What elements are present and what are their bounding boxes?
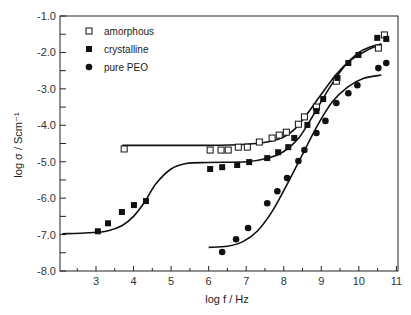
y-axis-label: log σ / Scm⁻¹ xyxy=(12,112,24,178)
data-point-amorphous xyxy=(301,114,307,120)
data-point-crystalline xyxy=(291,135,297,141)
legend-label-crystalline: crystalline xyxy=(104,44,149,55)
x-tick-label: 7 xyxy=(243,275,249,287)
data-point-crystalline xyxy=(285,144,291,150)
y-tick-label: -3.0 xyxy=(37,83,56,95)
data-point-crystalline xyxy=(119,209,125,215)
legend-label-pure-peo: pure PEO xyxy=(104,62,148,73)
data-point-pure-PEO xyxy=(333,100,340,107)
data-point-pure-PEO xyxy=(284,175,291,182)
data-point-crystalline xyxy=(246,159,252,165)
data-point-amorphous xyxy=(235,144,241,150)
data-point-crystalline xyxy=(313,108,319,114)
data-point-pure-PEO xyxy=(233,236,240,243)
y-axis-ticks: -1.0-2.0-3.0-4.0-5.0-6.0-7.0-8.0 xyxy=(37,10,66,277)
x-axis-ticks: 34567891011 xyxy=(77,266,402,287)
data-point-pure-PEO xyxy=(219,249,226,256)
data-point-amorphous xyxy=(218,147,224,153)
data-point-pure-PEO xyxy=(322,118,329,125)
data-point-crystalline xyxy=(334,75,340,81)
x-tick-label: 6 xyxy=(206,275,212,287)
data-point-pure-PEO xyxy=(274,188,281,195)
data-point-crystalline xyxy=(275,149,281,155)
data-point-crystalline xyxy=(95,228,101,234)
x-tick-label: 8 xyxy=(281,275,287,287)
data-point-pure-PEO xyxy=(245,225,252,232)
data-point-amorphous xyxy=(121,146,127,152)
y-tick-label: -6.0 xyxy=(37,192,56,204)
data-point-amorphous xyxy=(375,45,381,51)
data-point-crystalline xyxy=(374,35,380,41)
data-point-amorphous xyxy=(269,135,275,141)
data-point-pure-PEO xyxy=(264,200,271,207)
data-point-pure-PEO xyxy=(301,147,308,154)
x-axis-label: log f / Hz xyxy=(205,293,248,305)
legend-pure-peo-filled-circle-icon xyxy=(86,64,93,71)
x-tick-label: 3 xyxy=(93,275,99,287)
x-tick-label: 9 xyxy=(318,275,324,287)
y-tick-label: -1.0 xyxy=(37,10,56,22)
data-point-crystalline xyxy=(234,162,240,168)
data-point-amorphous xyxy=(207,147,213,153)
data-point-amorphous xyxy=(225,147,231,153)
data-point-amorphous xyxy=(276,132,282,138)
data-point-crystalline xyxy=(383,36,389,42)
data-point-pure-PEO xyxy=(345,90,352,97)
legend: amorphous crystalline pure PEO xyxy=(86,26,154,73)
y-tick-label: -7.0 xyxy=(37,229,56,241)
fit-curves xyxy=(62,44,381,247)
data-point-crystalline xyxy=(264,155,270,161)
legend-crystalline-filled-square-icon xyxy=(86,46,92,52)
y-tick-label: -5.0 xyxy=(37,156,56,168)
y-tick-label: -2.0 xyxy=(37,46,56,58)
data-point-crystalline xyxy=(131,202,137,208)
x-tick-label: 5 xyxy=(168,275,174,287)
data-point-crystalline xyxy=(355,52,361,58)
data-point-crystalline xyxy=(143,198,149,204)
data-point-pure-PEO xyxy=(295,158,302,165)
data-point-pure-PEO xyxy=(354,82,361,89)
data-point-crystalline xyxy=(219,164,225,170)
y-tick-label: -8.0 xyxy=(37,265,56,277)
data-point-pure-PEO xyxy=(375,65,382,72)
legend-label-amorphous: amorphous xyxy=(104,26,154,37)
y-tick-label: -4.0 xyxy=(37,119,56,131)
x-tick-label: 10 xyxy=(353,275,365,287)
x-tick-label: 4 xyxy=(130,275,136,287)
data-point-pure-PEO xyxy=(313,130,320,137)
x-tick-label: 11 xyxy=(391,275,402,287)
data-point-amorphous xyxy=(244,144,250,150)
data-point-amorphous xyxy=(256,139,262,145)
fit-curve-pure-PEO xyxy=(209,75,382,247)
data-point-crystalline xyxy=(207,166,213,172)
data-point-amorphous xyxy=(283,129,289,135)
data-point-pure-PEO xyxy=(383,60,390,67)
data-point-crystalline xyxy=(345,60,351,66)
data-point-crystalline xyxy=(304,122,310,128)
legend-amorphous-open-square-icon xyxy=(86,28,92,34)
fit-curve-amorphous xyxy=(122,44,381,145)
data-point-crystalline xyxy=(105,220,111,226)
chart: 34567891011 -1.0-2.0-3.0-4.0-5.0-6.0-7.0… xyxy=(0,0,411,315)
data-point-crystalline xyxy=(320,96,326,102)
data-point-amorphous xyxy=(295,121,301,127)
